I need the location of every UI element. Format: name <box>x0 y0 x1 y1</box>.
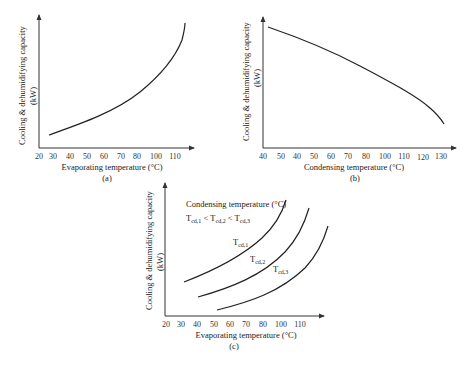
svg-text:100: 100 <box>379 152 391 161</box>
caption-a: (a) <box>102 173 112 183</box>
svg-text:60: 60 <box>100 152 108 161</box>
svg-text:110: 110 <box>294 320 306 329</box>
y-axis-label-a: Cooling & dehumidifying capacity <box>17 26 27 145</box>
svg-text:50: 50 <box>277 152 285 161</box>
svg-text:40: 40 <box>66 152 74 161</box>
legend-title-c: Condensing temperature (°C) <box>186 199 286 209</box>
x-ticks-a: 20 30 40 50 60 70 80 100 110 <box>35 152 181 161</box>
y-axis-unit-c: (kW) <box>155 253 165 271</box>
label-tcd2: Tcd,2 <box>250 254 265 265</box>
y-axis-unit-b: (kW) <box>252 69 262 87</box>
x-axis-label-a: Evaporating temperature (°C) <box>61 162 162 172</box>
curve-a <box>49 23 185 135</box>
caption-b: (b) <box>350 173 360 183</box>
svg-text:80: 80 <box>362 152 370 161</box>
svg-text:100: 100 <box>150 152 162 161</box>
svg-text:130: 130 <box>435 152 447 161</box>
svg-text:40: 40 <box>259 152 267 161</box>
svg-text:120: 120 <box>417 153 429 162</box>
label-tcd3: Tcd,3 <box>273 264 288 275</box>
figure-canvas: 20 30 40 50 60 70 80 100 110 Evaporating… <box>0 0 469 367</box>
svg-text:110: 110 <box>169 152 181 161</box>
x-ticks-c: 20 30 40 50 60 70 80 100 110 <box>162 320 306 329</box>
svg-text:40: 40 <box>293 152 301 161</box>
curve-b <box>268 27 444 124</box>
svg-text:80: 80 <box>133 152 141 161</box>
svg-text:50: 50 <box>210 320 218 329</box>
svg-text:50: 50 <box>83 152 91 161</box>
label-tcd1: Tcd,1 <box>233 237 248 248</box>
svg-text:70: 70 <box>117 152 125 161</box>
y-axis-unit-a: (kW) <box>28 87 38 105</box>
svg-text:80: 80 <box>259 320 267 329</box>
chart-b: 40 50 40 50 60 70 80 100 110 120 130 Con… <box>241 17 456 183</box>
y-axis-label-c: Cooling & dehumidifying capacity <box>144 191 154 310</box>
chart-a: 20 30 40 50 60 70 80 100 110 Evaporating… <box>17 15 194 183</box>
x-ticks-b: 40 50 40 50 60 70 80 100 110 120 130 <box>259 152 447 162</box>
svg-text:110: 110 <box>398 152 410 161</box>
svg-text:40: 40 <box>193 320 201 329</box>
chart-c: Condensing temperature (°C) Tcd,1 < Tcd,… <box>144 183 328 351</box>
svg-text:30: 30 <box>177 320 185 329</box>
svg-text:60: 60 <box>226 320 234 329</box>
x-axis-label-c: Evaporating temperature (°C) <box>195 330 296 340</box>
svg-text:50: 50 <box>310 152 318 161</box>
svg-text:20: 20 <box>162 320 170 329</box>
svg-text:20: 20 <box>35 152 43 161</box>
caption-c: (c) <box>229 341 239 351</box>
svg-text:30: 30 <box>49 152 57 161</box>
svg-text:60: 60 <box>327 152 335 161</box>
svg-text:70: 70 <box>242 320 250 329</box>
y-axis-label-b: Cooling & dehumidifying capacity <box>241 22 251 141</box>
svg-text:70: 70 <box>344 152 352 161</box>
legend-relation-c: Tcd,1 < Tcd,2 < Tcd,3 <box>186 213 250 224</box>
svg-text:100: 100 <box>275 320 287 329</box>
x-axis-label-b: Condensing temperature (°C) <box>304 162 404 172</box>
